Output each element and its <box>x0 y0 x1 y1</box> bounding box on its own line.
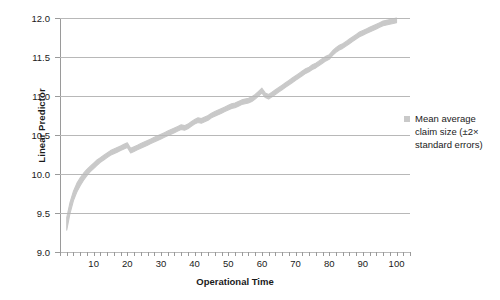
x-axis-tick-mark <box>67 252 68 256</box>
x-axis-tick-mark <box>403 252 404 256</box>
x-axis-tick-label: 80 <box>324 258 335 269</box>
x-axis-tick-mark <box>222 252 223 256</box>
x-axis-tick-label: 100 <box>389 258 405 269</box>
x-axis-tick-mark <box>208 252 209 256</box>
x-axis-tick-mark <box>174 252 175 256</box>
y-axis-tick-label: 10.0 <box>32 169 51 180</box>
y-axis-tick-marks <box>55 18 61 252</box>
x-axis-tick-mark <box>168 252 169 256</box>
x-axis-tick-mark <box>309 252 310 256</box>
x-axis-tick-mark <box>269 252 270 256</box>
x-axis-tick-mark <box>100 252 101 256</box>
x-axis-tick-mark <box>390 252 391 256</box>
x-axis-tick-mark <box>356 252 357 256</box>
y-axis-tick-label: 11.5 <box>32 52 50 63</box>
x-axis-tick-mark <box>376 252 377 256</box>
x-axis-tick-mark <box>161 252 162 256</box>
x-axis-tick-mark <box>316 252 317 256</box>
x-axis-title: Operational Time <box>60 276 410 287</box>
x-axis-tick-mark <box>370 252 371 256</box>
x-axis-tick-mark <box>201 252 202 256</box>
y-axis-tick-mark <box>55 135 60 136</box>
y-axis-tick-labels: 9.09.510.010.511.011.512.0 <box>0 0 56 300</box>
x-axis-tick-mark <box>87 252 88 256</box>
x-axis-tick-mark <box>188 252 189 256</box>
x-axis-tick-label: 60 <box>257 258 268 269</box>
x-axis-tick-mark <box>127 252 128 256</box>
x-axis-tick-mark <box>329 252 330 256</box>
x-axis-tick-mark <box>349 252 350 256</box>
x-axis-tick-label: 30 <box>156 258 167 269</box>
confidence-band-area <box>67 18 397 230</box>
y-axis-tick-label: 12.0 <box>32 13 51 24</box>
x-axis-tick-mark <box>255 252 256 256</box>
x-axis-tick-label: 50 <box>223 258 234 269</box>
plot-area <box>60 18 410 252</box>
legend-label: Mean average claim size (±2× standard er… <box>415 112 500 151</box>
y-axis-tick-mark <box>55 174 60 175</box>
legend-swatch-icon <box>404 116 410 122</box>
x-axis-tick-marks <box>60 235 410 241</box>
x-axis-tick-mark <box>275 252 276 256</box>
x-axis-tick-mark <box>343 252 344 256</box>
x-axis-tick-mark <box>60 252 61 256</box>
y-axis-tick-label: 9.5 <box>37 208 50 219</box>
x-axis-tick-mark <box>296 252 297 256</box>
x-axis-tick-mark <box>134 252 135 256</box>
x-axis-tick-mark <box>262 252 263 256</box>
x-axis-tick-label: 20 <box>122 258 133 269</box>
x-axis-tick-mark <box>228 252 229 256</box>
gridline <box>60 96 410 97</box>
gridline <box>60 174 410 175</box>
y-axis-tick-label: 10.5 <box>32 130 51 141</box>
gridline <box>60 18 410 19</box>
y-axis-tick-mark <box>55 213 60 214</box>
x-axis-tick-mark <box>195 252 196 256</box>
x-axis-tick-mark <box>397 252 398 256</box>
x-axis-tick-mark <box>107 252 108 256</box>
x-axis-tick-mark <box>302 252 303 256</box>
x-axis-tick-mark <box>363 252 364 256</box>
y-axis-tick-mark <box>55 96 60 97</box>
y-axis-tick-mark <box>55 57 60 58</box>
x-axis-tick-mark <box>154 252 155 256</box>
x-axis-tick-mark <box>215 252 216 256</box>
x-axis-tick-mark <box>235 252 236 256</box>
x-axis-tick-label: 40 <box>189 258 200 269</box>
x-axis-tick-mark <box>336 252 337 256</box>
legend: Mean average claim size (±2× standard er… <box>404 112 500 151</box>
x-axis-tick-mark <box>80 252 81 256</box>
y-axis-tick-mark <box>55 18 60 19</box>
gridline <box>60 135 410 136</box>
gridline <box>60 57 410 58</box>
x-axis-tick-mark <box>248 252 249 256</box>
x-axis-tick-labels: 102030405060708090100 <box>60 258 410 272</box>
y-axis-tick-label: 9.0 <box>37 247 50 258</box>
x-axis-tick-mark <box>114 252 115 256</box>
x-axis-tick-mark <box>323 252 324 256</box>
y-axis-tick-label: 11.0 <box>32 91 50 102</box>
chart-container: Linear Predictor 9.09.510.010.511.011.51… <box>0 0 500 300</box>
x-axis-tick-mark <box>94 252 95 256</box>
x-axis-tick-mark <box>141 252 142 256</box>
x-axis-tick-mark <box>181 252 182 256</box>
x-axis-tick-mark <box>289 252 290 256</box>
x-axis-tick-mark <box>282 252 283 256</box>
x-axis-tick-label: 70 <box>290 258 301 269</box>
x-axis-tick-mark <box>73 252 74 256</box>
x-axis-tick-label: 10 <box>88 258 99 269</box>
x-axis-tick-mark <box>148 252 149 256</box>
x-axis-tick-mark <box>242 252 243 256</box>
gridline <box>60 213 410 214</box>
x-axis-tick-mark <box>121 252 122 256</box>
x-axis-tick-label: 90 <box>358 258 369 269</box>
x-axis-tick-mark <box>410 252 411 256</box>
x-axis-tick-mark <box>383 252 384 256</box>
